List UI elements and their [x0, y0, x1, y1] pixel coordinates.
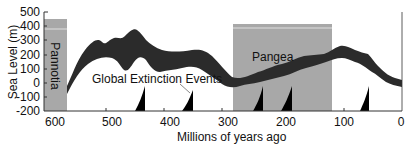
y-axis-title: Sea Level (m): [6, 17, 20, 107]
pannotia-label: Pannotia: [48, 26, 62, 106]
x-axis-title: Millions of years ago: [177, 130, 286, 144]
x-tick-label: 300: [218, 115, 238, 129]
y-tick-label: 0: [33, 77, 40, 89]
y-tick-label: 200: [20, 49, 40, 61]
x-tick-label: 0: [398, 115, 405, 129]
x-tick-label: 400: [160, 115, 180, 129]
y-tick-label: 100: [20, 63, 40, 75]
x-tick-label: 100: [334, 115, 354, 129]
x-tick-label: 600: [45, 115, 65, 129]
extinction-events-label: Global Extinction Events: [92, 72, 222, 86]
y-tick-label: 400: [20, 20, 40, 32]
y-tick-label: 300: [20, 34, 40, 46]
pangea-label: Pangea: [252, 50, 293, 64]
x-tick-label: 500: [102, 115, 122, 129]
y-tick-label: 500: [20, 6, 40, 18]
x-tick-label: 200: [276, 115, 296, 129]
